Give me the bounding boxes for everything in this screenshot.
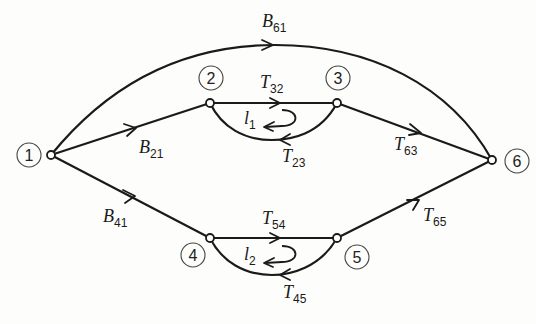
- diagram-svg: 1 2 3 4 5 6 B61 B21 B41 T32 T23 T63 T54 …: [0, 0, 536, 324]
- node-label-4: 4: [189, 247, 198, 264]
- node-label-3: 3: [334, 70, 343, 87]
- node-label-6: 6: [513, 153, 522, 170]
- label-b41: B41: [103, 206, 128, 230]
- label-b21: B21: [139, 137, 164, 161]
- label-t45: T45: [283, 282, 307, 306]
- node-2: [206, 99, 214, 107]
- signal-flow-graph: 1 2 3 4 5 6 B61 B21 B41 T32 T23 T63 T54 …: [0, 0, 536, 324]
- label-t54: T54: [262, 208, 286, 232]
- label-t63: T63: [394, 134, 418, 158]
- edge-t45: [210, 238, 337, 275]
- node-3: [333, 99, 341, 107]
- label-t23: T23: [282, 146, 306, 170]
- label-b61: B61: [262, 11, 287, 35]
- label-l2: l2: [244, 244, 256, 268]
- node-label-2: 2: [207, 70, 216, 87]
- node-label-1: 1: [25, 147, 34, 164]
- edge-t65: [337, 160, 492, 238]
- label-t65: T65: [423, 205, 447, 229]
- label-t32: T32: [260, 72, 284, 96]
- node-5: [333, 234, 341, 242]
- node-1: [47, 151, 55, 159]
- node-6: [488, 156, 496, 164]
- node-label-5: 5: [353, 249, 362, 266]
- edge-b41: [51, 155, 210, 238]
- node-4: [206, 234, 214, 242]
- label-l1: l1: [244, 108, 256, 132]
